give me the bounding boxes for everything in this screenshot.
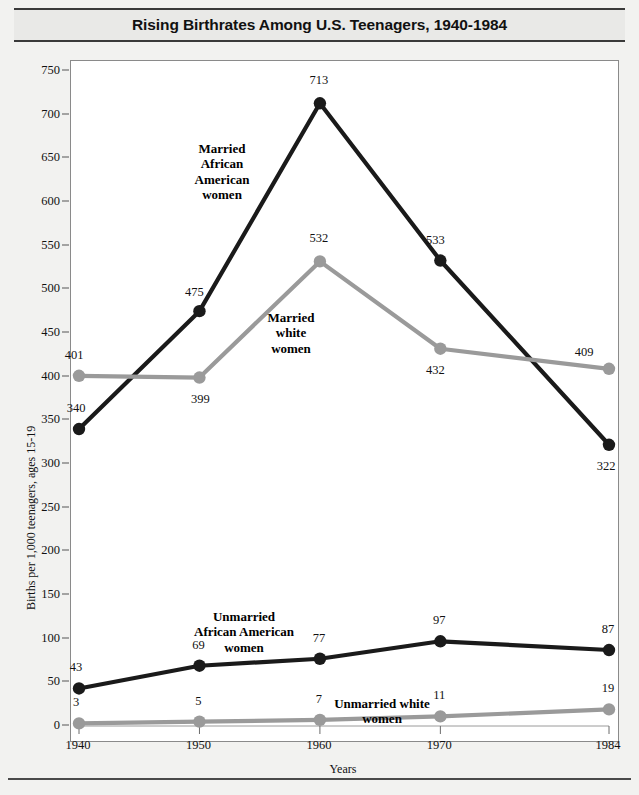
- series-annotation-unmarried-black: UnmarriedAfrican Americanwomen: [194, 609, 294, 655]
- data-point-marker: [73, 423, 85, 435]
- y-axis-tick-mark: [62, 637, 69, 638]
- data-point-marker: [193, 715, 205, 727]
- y-axis-tick-label: 450: [26, 325, 60, 340]
- data-value-label: 43: [70, 660, 83, 675]
- y-axis-tick-mark: [62, 113, 69, 114]
- y-axis-tick-label: 700: [26, 106, 60, 121]
- series-line: [79, 641, 609, 688]
- y-axis-tick-label: 350: [26, 412, 60, 427]
- data-value-label: 401: [65, 347, 84, 362]
- data-point-marker: [314, 97, 326, 109]
- data-point-marker: [314, 714, 326, 726]
- data-point-marker: [603, 363, 615, 375]
- y-axis-tick-label: 50: [26, 674, 60, 689]
- line-chart-svg: [71, 61, 618, 741]
- y-axis-tick-mark: [62, 70, 69, 71]
- data-point-marker: [603, 703, 615, 715]
- y-axis-tick-label: 0: [26, 718, 60, 733]
- data-point-marker: [603, 644, 615, 656]
- data-point-marker: [193, 371, 205, 383]
- series-line: [79, 103, 609, 444]
- y-axis-tick-label: 550: [26, 237, 60, 252]
- y-axis-tick-mark: [62, 463, 69, 464]
- y-axis-tick-mark: [62, 419, 69, 420]
- series-annotation-married-white: Marriedwhitewomen: [268, 310, 315, 356]
- y-axis-tick-mark: [62, 332, 69, 333]
- data-point-marker: [193, 660, 205, 672]
- x-axis-tick-label: 1984: [596, 738, 621, 753]
- chart-page: Rising Birthrates Among U.S. Teenagers, …: [0, 0, 639, 795]
- y-axis-tick-mark: [62, 725, 69, 726]
- y-axis-tick-label: 500: [26, 281, 60, 296]
- series-annotation-unmarried-white: Unmarried whitewomen: [334, 696, 430, 727]
- footer-divider: [8, 778, 631, 780]
- y-axis-tick-mark: [62, 594, 69, 595]
- page-title: Rising Birthrates Among U.S. Teenagers, …: [132, 16, 507, 34]
- data-point-marker: [314, 255, 326, 267]
- series-annotation-married-black: MarriedAfricanAmericanwomen: [195, 141, 250, 202]
- source-credit: [400, 783, 635, 794]
- data-point-marker: [434, 710, 446, 722]
- y-axis-tick-label: 600: [26, 194, 60, 209]
- data-point-marker: [314, 653, 326, 665]
- data-point-marker: [73, 717, 85, 729]
- data-value-label: 19: [602, 681, 615, 696]
- y-axis-tick-mark: [62, 244, 69, 245]
- data-value-label: 432: [426, 362, 445, 377]
- x-axis-tick-label: 1950: [186, 738, 211, 753]
- data-value-label: 713: [310, 73, 329, 88]
- title-band: Rising Birthrates Among U.S. Teenagers, …: [14, 8, 625, 42]
- y-axis-tick-mark: [62, 157, 69, 158]
- x-axis-tick-label: 1940: [66, 738, 91, 753]
- data-point-marker: [434, 254, 446, 266]
- y-axis-tick-label: 400: [26, 368, 60, 383]
- y-axis-tick-label: 650: [26, 150, 60, 165]
- data-value-label: 340: [67, 401, 86, 416]
- y-axis-tick-mark: [62, 288, 69, 289]
- data-value-label: 77: [313, 630, 326, 645]
- data-point-marker: [603, 439, 615, 451]
- data-value-label: 533: [426, 232, 445, 247]
- y-axis-tick-label: 750: [26, 63, 60, 78]
- series-line: [79, 261, 609, 377]
- data-value-label: 97: [433, 613, 446, 628]
- y-axis-tick-mark: [62, 375, 69, 376]
- x-axis-tick-label: 1960: [306, 738, 331, 753]
- data-value-label: 11: [433, 688, 445, 703]
- data-point-marker: [434, 343, 446, 355]
- data-value-label: 87: [602, 622, 615, 637]
- data-value-label: 3: [73, 695, 79, 710]
- y-axis-tick-mark: [62, 506, 69, 507]
- y-axis-title: Births per 1,000 teenagers, ages 15-19: [24, 426, 39, 610]
- x-axis-title: Years: [283, 762, 403, 777]
- data-value-label: 399: [191, 391, 210, 406]
- y-axis-tick-mark: [62, 550, 69, 551]
- data-value-label: 5: [195, 693, 201, 708]
- data-point-marker: [193, 305, 205, 317]
- y-axis-tick-mark: [62, 201, 69, 202]
- data-value-label: 7: [316, 691, 322, 706]
- data-value-label: 409: [575, 344, 594, 359]
- plot-area: [70, 60, 619, 742]
- y-axis-tick-label: 100: [26, 630, 60, 645]
- y-axis-tick-mark: [62, 681, 69, 682]
- data-point-marker: [434, 635, 446, 647]
- data-point-marker: [73, 370, 85, 382]
- data-point-marker: [73, 682, 85, 694]
- data-value-label: 475: [185, 285, 204, 300]
- data-value-label: 532: [310, 231, 329, 246]
- x-axis-tick-label: 1970: [427, 738, 452, 753]
- data-value-label: 322: [597, 458, 616, 473]
